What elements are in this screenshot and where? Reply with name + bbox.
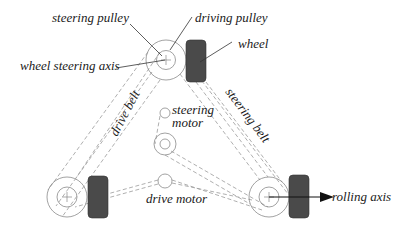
label-rolling-axis: rolling axis xyxy=(332,189,391,204)
intermediate-pulley xyxy=(154,133,176,155)
label-steering-pulley: steering pulley xyxy=(52,10,129,25)
wheel-icon xyxy=(88,176,108,218)
label-driving-pulley: driving pulley xyxy=(195,10,268,25)
drive-motor xyxy=(158,174,172,188)
steering-motor xyxy=(160,108,170,118)
bottom-left-wheel-module xyxy=(47,176,108,218)
label-drive-belt: drive belt xyxy=(106,87,143,138)
label-steering-motor-line2: motor xyxy=(172,115,204,130)
label-wheel-steering-axis: wheel steering axis xyxy=(20,58,120,73)
wheel-icon xyxy=(186,40,206,82)
label-wheel: wheel xyxy=(238,36,269,51)
label-steering-belt: steering belt xyxy=(223,85,274,146)
omnidirectional-drive-diagram: steering pulley driving pulley wheel whe… xyxy=(0,0,412,230)
label-drive-motor: drive motor xyxy=(146,191,208,206)
top-wheel-module xyxy=(146,40,206,82)
